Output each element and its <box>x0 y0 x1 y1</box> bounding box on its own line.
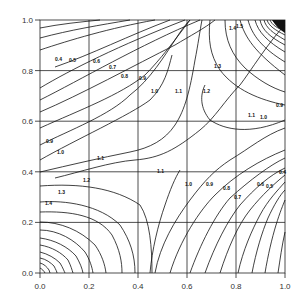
x-tick-label: 0.2 <box>83 282 95 291</box>
contour-labels: 0.4 0.5 0.6 0.7 0.8 0.9 1.0 1.1 1.2 1.3 … <box>45 23 286 206</box>
contour-label: 1.0 <box>260 114 267 120</box>
contour-label: 1.4 <box>45 200 52 206</box>
contour-label: 0.4 <box>55 56 62 62</box>
y-tick-label: 0.8 <box>22 67 34 76</box>
contour-plot: 0.0 0.2 0.4 0.6 0.8 1.0 0.0 0.2 0.4 0.6 … <box>0 0 301 303</box>
contour-label: 1.3 <box>58 189 65 195</box>
contour-label: 0.9 <box>206 181 213 187</box>
contour-label: 0.9 <box>139 75 146 81</box>
contours-top-right-dense <box>248 20 285 62</box>
contour-label: 0.6 <box>93 58 100 64</box>
x-tick-label: 0.6 <box>181 282 193 291</box>
contour-label: 1.0 <box>151 88 158 94</box>
contour-label: 0.6 <box>257 181 264 187</box>
contours-bottom-left <box>40 185 152 273</box>
contour-label: 0.5 <box>266 183 273 189</box>
contour-label: 0.8 <box>223 185 230 191</box>
contour-label: 1.1 <box>97 155 104 161</box>
y-axis-ticks: 0.0 0.2 0.4 0.6 0.8 1.0 <box>22 16 34 278</box>
x-tick-label: 1.0 <box>279 282 291 291</box>
contours-lower-right <box>150 128 285 273</box>
contour-label: 0.4 <box>279 169 286 175</box>
x-tick-label: 0.4 <box>132 282 144 291</box>
contour-label: 1.1 <box>175 88 182 94</box>
plot-frame <box>40 20 285 273</box>
contour-label: 1.0 <box>57 149 64 155</box>
x-tick-label: 0.8 <box>230 282 242 291</box>
contour-label: 1.3 <box>214 63 221 69</box>
contours-middle <box>40 20 285 178</box>
y-tick-label: 0.2 <box>22 218 34 227</box>
contour-label: 0.9 <box>276 102 283 108</box>
contour-label: 1.0 <box>185 181 192 187</box>
y-tick-label: 1.0 <box>22 16 34 25</box>
y-tick-label: 0.6 <box>22 117 34 126</box>
contour-label: 1.1 <box>157 168 164 174</box>
contour-label: 0.8 <box>121 73 128 79</box>
contour-label: 0.7 <box>234 194 241 200</box>
y-tick-label: 0.0 <box>22 269 34 278</box>
y-tick-label: 0.4 <box>22 168 34 177</box>
contour-label: 1.2 <box>83 177 90 183</box>
contour-label: 1.1 <box>248 112 255 118</box>
x-axis-ticks: 0.0 0.2 0.4 0.6 0.8 1.0 <box>34 282 291 291</box>
contour-label: 1.5 <box>236 23 243 29</box>
x-tick-label: 0.0 <box>34 282 46 291</box>
contour-label: 1.2 <box>203 88 210 94</box>
contour-label: 0.9 <box>46 138 53 144</box>
contour-label: 0.7 <box>109 64 116 70</box>
contour-label: 0.5 <box>69 57 76 63</box>
